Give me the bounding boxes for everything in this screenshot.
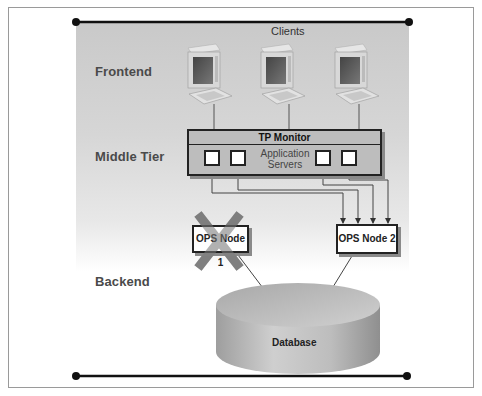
app-servers-label-line1: Application [255,148,315,159]
client-connectors [214,104,359,129]
app-servers-label-line2: Servers [255,159,315,170]
bottom-bus-line [72,372,411,380]
app-server-4 [341,150,357,166]
tier-label-middle: Middle Tier [95,149,164,164]
client-computer-1 [188,44,232,104]
clients-label: Clients [271,25,305,37]
tier-label-frontend: Frontend [95,64,152,79]
ops-node-2: OPS Node 2 [336,224,398,254]
app-server-2 [230,150,246,166]
database-label: Database [272,337,316,348]
ops-node-1: OPS Node 1 [192,225,249,253]
client-computer-3 [335,44,379,104]
diagram-canvas [0,0,482,396]
tp-monitor-box: TP Monitor Application Servers [187,129,382,176]
app-server-1 [204,150,220,166]
app-servers-label: Application Servers [255,148,315,170]
database-cylinder [216,283,380,374]
client-computer-2 [261,44,305,104]
app-server-3 [315,150,331,166]
tp-monitor-title: TP Monitor [189,131,380,145]
tier-label-backend: Backend [95,274,150,289]
top-bus-line [72,18,413,26]
